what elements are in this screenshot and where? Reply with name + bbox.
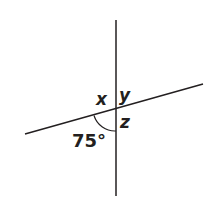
angle-diagram: x y z 75° (0, 0, 209, 197)
label-y: y (119, 85, 131, 105)
angle-arc (94, 116, 116, 132)
label-z: z (119, 112, 130, 132)
transversal-line (25, 84, 203, 134)
label-x: x (95, 89, 108, 109)
label-75-degrees: 75° (72, 130, 106, 151)
